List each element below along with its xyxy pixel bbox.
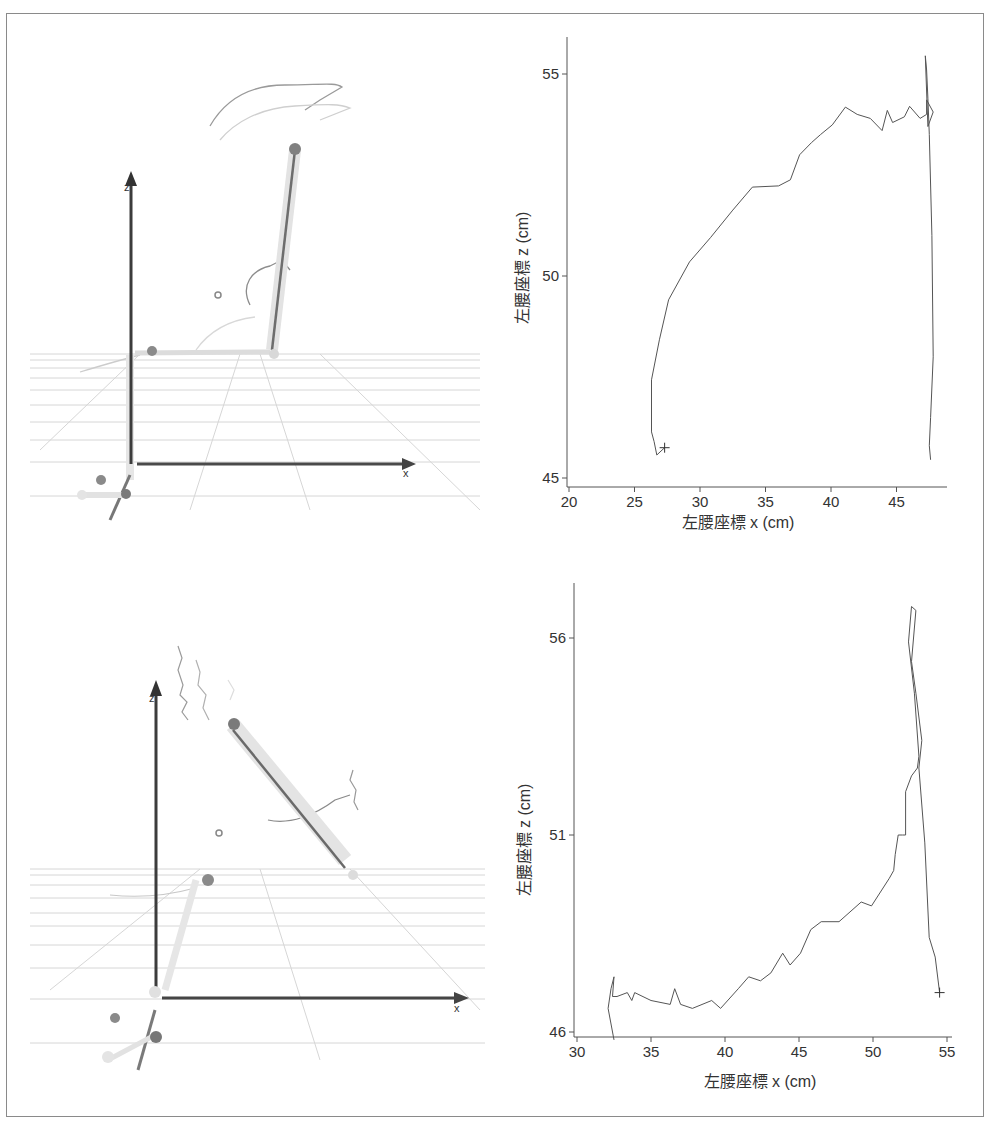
y-tick-label: 51 [549, 826, 566, 843]
x-tick-label: 40 [823, 493, 840, 510]
x-tick-label: 30 [569, 1043, 586, 1060]
chart-axes [567, 37, 947, 487]
y-tick-label: 55 [542, 65, 559, 82]
x-tick-label: 35 [757, 493, 774, 510]
y-tick-label: 50 [542, 267, 559, 284]
x-tick-label: 45 [888, 493, 905, 510]
x-tick-label: 50 [865, 1043, 882, 1060]
y-tick-label: 46 [549, 1023, 566, 1040]
x-tick-label: 30 [692, 493, 709, 510]
x-axis-title: 左腰座標 x (cm) [682, 514, 795, 531]
x-tick-label: 20 [561, 493, 578, 510]
x-tick-label: 25 [626, 493, 643, 510]
y-tick-label: 56 [549, 629, 566, 646]
chart-axes [574, 583, 952, 1037]
chart-ticks: 202530354045455055 [542, 65, 905, 510]
trajectory-line [652, 56, 934, 460]
chart-bottom-right: 303540455055465156 左腰座標 x (cm) 左腰座標 z (c… [0, 560, 987, 1131]
y-axis-title: 左腰座標 z (cm) [514, 212, 531, 325]
trajectory-line [608, 607, 940, 1040]
y-axis-title: 左腰座標 z (cm) [516, 784, 533, 897]
end-marker [935, 988, 945, 998]
x-tick-label: 35 [643, 1043, 660, 1060]
x-axis-title: 左腰座標 x (cm) [704, 1073, 817, 1090]
x-tick-label: 55 [939, 1043, 956, 1060]
x-tick-label: 40 [717, 1043, 734, 1060]
y-tick-label: 45 [542, 469, 559, 486]
x-tick-label: 45 [791, 1043, 808, 1060]
chart-top-right: 202530354045455055 左腰座標 x (cm) 左腰座標 z (c… [0, 0, 987, 560]
